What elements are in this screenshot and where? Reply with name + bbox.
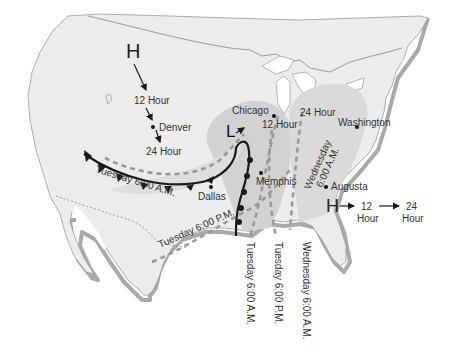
east-high-24-unit: Hour — [402, 213, 424, 224]
low-24-hour-label: 24 Hour — [300, 107, 336, 118]
low-pressure-symbol: L — [226, 122, 235, 141]
vertical-label-tue-pm: Tuesday 6:00 P.M. — [273, 242, 284, 324]
west-high-12-hour-label: 12 Hour — [134, 95, 170, 106]
high-pressure-symbol-west: H — [126, 40, 140, 62]
east-high-12-unit: Hour — [357, 213, 379, 224]
vertical-label-tue-am: Tuesday 6:00 A.M. — [245, 242, 256, 325]
city-augusta: Augusta — [331, 181, 368, 192]
east-high-24-label: 24 — [406, 201, 418, 212]
city-chicago: Chicago — [232, 105, 269, 116]
east-high-12-label: 12 — [361, 201, 373, 212]
city-washington: Washington — [338, 117, 390, 128]
high-pressure-symbol-east: H — [326, 196, 339, 216]
vertical-labels: Tuesday 6:00 A.M. Tuesday 6:00 P.M. Wedn… — [245, 242, 312, 340]
vertical-label-wed-am: Wednesday 6:00 A.M. — [301, 242, 312, 340]
city-memphis: Memphis — [256, 176, 297, 187]
city-denver: Denver — [159, 122, 192, 133]
west-high-24-hour-label: 24 Hour — [146, 146, 182, 157]
low-12-hour-label: 12 Hour — [262, 119, 298, 130]
weather-map: H 12 Hour 24 Hour Denver Chicago Washing… — [0, 0, 450, 355]
city-dallas: Dallas — [198, 191, 226, 202]
